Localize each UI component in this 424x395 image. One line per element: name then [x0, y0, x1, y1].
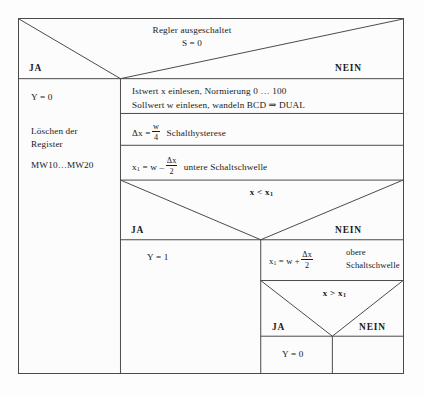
obere-comment-line1: obere	[346, 246, 400, 259]
obere-denominator: 2	[301, 260, 313, 270]
untere-numerator: Δx	[166, 156, 178, 166]
yes-branch-statement-3: MW10…MW20	[31, 159, 94, 172]
inner-yes-statement: Y = 0	[282, 348, 303, 361]
read-block-line2: Sollwert w einlesen, wandeln BCD ⇒ DUAL	[132, 99, 305, 113]
yes-branch-statement-2: Löschen der Register	[31, 125, 117, 151]
obere-schaltschwelle-comment: obere Schaltschwelle	[346, 246, 400, 271]
untere-fraction: Δx2	[166, 156, 178, 176]
hysterese-denominator: 4	[152, 132, 160, 142]
inner-decision-condition-main: x > x	[323, 288, 343, 298]
untere-denominator: 2	[166, 166, 178, 176]
yes-branch-statement-2-line1: Löschen der	[31, 126, 78, 136]
obere-lhs-rest: = w +	[279, 256, 300, 266]
inner-decision-condition-subscript: 1	[343, 292, 346, 298]
lower-decision-no-label: NEIN	[335, 225, 362, 235]
lower-decision-yes-label: JA	[131, 225, 144, 235]
hysterese-comment: Schalthysterese	[167, 128, 226, 138]
obere-fraction: Δx2	[301, 250, 313, 270]
read-block: Istwert x einlesen, Normierung 0 … 100 S…	[132, 85, 305, 112]
lower-decision-condition: x < x1	[204, 187, 319, 197]
inner-decision-no-label: NEIN	[359, 322, 386, 332]
read-block-line1: Istwert x einlesen, Normierung 0 … 100	[132, 85, 305, 99]
inner-decision-yes-label: JA	[272, 322, 285, 332]
untere-schaltschwelle-block: x1 = w –Δx2 untere Schaltschwelle	[132, 156, 267, 176]
untere-comment: untere Schaltschwelle	[184, 162, 268, 172]
obere-comment-line2: Schaltschwelle	[346, 259, 400, 272]
screenshot-canvas: Regler ausgeschaltet S = 0 JA NEIN Y = 0…	[0, 0, 424, 395]
untere-lhs-rest: = w –	[142, 162, 164, 172]
top-decision-condition: Regler ausgeschaltet S = 0	[97, 24, 287, 50]
top-decision-yes-label: JA	[29, 63, 42, 73]
obere-schaltschwelle-block: x1 = w +Δx2	[269, 250, 314, 270]
obere-numerator: Δx	[301, 250, 313, 260]
inner-decision-condition: x > x1	[287, 288, 382, 298]
lower-yes-statement: Y = 1	[147, 251, 168, 264]
hysterese-numerator: w	[152, 122, 160, 132]
lower-decision-condition-main: x < x	[250, 187, 270, 197]
yes-branch-statement-2-line2: Register	[31, 139, 63, 149]
top-decision-no-label: NEIN	[335, 63, 362, 73]
untere-lhs-subscript: 1	[137, 165, 140, 172]
obere-lhs-subscript: 1	[273, 260, 276, 266]
yes-branch-statement-1: Y = 0	[31, 91, 52, 104]
lower-decision-condition-subscript: 1	[270, 191, 273, 197]
hysterese-block: Δx =w4 Schalthysterese	[132, 122, 226, 142]
top-decision-condition-line2: S = 0	[97, 37, 287, 50]
hysterese-lhs: Δx =	[132, 128, 151, 138]
top-decision-condition-line1: Regler ausgeschaltet	[97, 24, 287, 37]
struktogramm-diagram: Regler ausgeschaltet S = 0 JA NEIN Y = 0…	[18, 18, 404, 374]
hysterese-fraction: w4	[152, 122, 160, 142]
